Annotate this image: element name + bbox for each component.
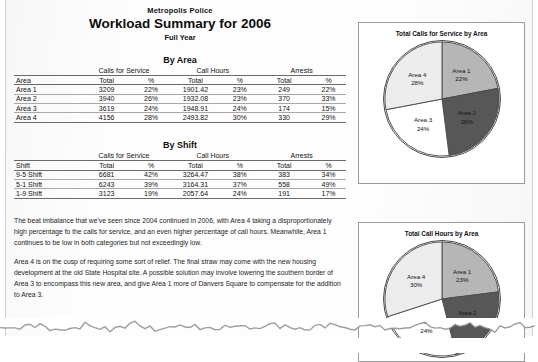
cell-calls-total: 6681 — [80, 170, 134, 179]
page-subtitle: Full Year — [14, 33, 346, 42]
cell-arrests-pct: 17% — [311, 189, 346, 198]
column-header-arrests-total: Total — [257, 161, 311, 170]
cell-calls-total: 3619 — [80, 104, 134, 113]
pie-slices — [384, 41, 500, 157]
column-header-hours-pct: % — [222, 75, 257, 84]
cell-hours-total: 3164.31 — [168, 179, 222, 188]
table-row: Area 4 4156 28% 2493.82 30% 330 29% — [14, 113, 346, 122]
column-header-calls-pct: % — [134, 75, 169, 84]
chart-panel-calls-by-area: Total Calls for Service by Area Area 122… — [358, 22, 525, 184]
column-header-calls-pct: % — [134, 161, 169, 170]
cell-hours-total: 2493.82 — [168, 113, 222, 122]
cell-calls-total: 3123 — [80, 189, 134, 198]
below-tear-strip — [0, 338, 538, 353]
pie-slice-value: 30% — [407, 281, 425, 289]
organization-name: Metropolis Police — [14, 6, 346, 15]
table-by-area: Calls for Service Call Hours Arrests Are… — [14, 67, 346, 123]
pie-slice-name: Area 4 — [407, 272, 425, 280]
pie-slice-label: Area 428% — [408, 71, 426, 88]
row-label: 1-9 Shift — [14, 189, 80, 198]
cell-arrests-pct: 22% — [311, 85, 346, 94]
row-label: Area 2 — [14, 94, 80, 103]
pie-slice-label: Area 226% — [458, 109, 476, 126]
cell-calls-pct: 19% — [134, 189, 169, 198]
note-paragraph-1: The beat imbalance that we've seen since… — [14, 215, 346, 248]
row-label: Area 4 — [14, 113, 80, 122]
column-header-arrests-pct: % — [311, 161, 346, 170]
section-title-by-area: By Area — [14, 55, 346, 65]
cell-hours-total: 1948.91 — [168, 104, 222, 113]
cell-arrests-total: 558 — [257, 179, 311, 188]
pie-slice-value: 24% — [414, 124, 432, 132]
pie-slice-name: Area 4 — [408, 71, 426, 79]
cell-calls-pct: 42% — [134, 170, 169, 179]
cell-arrests-total: 249 — [257, 85, 311, 94]
table-row: Area 1 3209 22% 1901.42 23% 249 22% — [14, 85, 346, 94]
table-row: 1-9 Shift 3123 19% 2057.64 24% 191 17% — [14, 189, 346, 198]
chart-title: Total Calls for Service by Area — [359, 30, 524, 37]
row-label: 5-1 Shift — [14, 179, 80, 188]
clipped-caption-line — [14, 338, 16, 341]
pie-slice-label: Area 324% — [414, 116, 432, 133]
pie-chart-calls-by-area: Area 122%Area 226%Area 324%Area 428% — [359, 40, 524, 158]
cell-arrests-pct: 34% — [311, 170, 346, 179]
pie-slice-name: Area 1 — [452, 67, 470, 75]
page-title: Workload Summary for 2006 — [14, 16, 346, 32]
note-paragraph-2: Area 4 is on the cusp of requiring some … — [14, 256, 346, 300]
pie-slice-value: 26% — [458, 117, 476, 125]
cell-arrests-pct: 33% — [311, 94, 346, 103]
cell-hours-pct: 24% — [222, 104, 257, 113]
table-row: 9-5 Shift 6681 42% 3264.47 38% 383 34% — [14, 170, 346, 179]
cell-hours-total: 1932.08 — [168, 94, 222, 103]
table-column-header-row: Shift Total % Total % Total % — [14, 161, 346, 170]
narrative-notes: The beat imbalance that we've seen since… — [14, 215, 346, 300]
cell-calls-total: 3940 — [80, 94, 134, 103]
table-row: Area 2 3940 26% 1932.08 23% 370 33% — [14, 94, 346, 103]
row-label: 9-5 Shift — [14, 170, 80, 179]
column-header-hours-total: Total — [168, 75, 222, 84]
cell-arrests-total: 370 — [257, 94, 311, 103]
table-by-shift: Calls for Service Call Hours Arrests Shi… — [14, 152, 346, 199]
group-header-blank — [14, 152, 80, 161]
group-header-blank — [14, 67, 80, 76]
cell-arrests-total: 383 — [257, 170, 311, 179]
cell-calls-pct: 22% — [134, 85, 169, 94]
column-header-hours-total: Total — [168, 161, 222, 170]
pie-slice-name: Area 3 — [414, 116, 432, 124]
column-header-hours-pct: % — [222, 161, 257, 170]
pie-slice-label: Area 123% — [453, 267, 471, 284]
cell-arrests-pct: 29% — [311, 113, 346, 122]
cell-arrests-total: 330 — [257, 113, 311, 122]
pie-slice-name: Area 2 — [458, 308, 476, 316]
cell-hours-pct: 23% — [222, 85, 257, 94]
group-header-calls: Calls for Service — [80, 152, 169, 161]
column-header-shift: Shift — [14, 161, 80, 170]
table-row: 5-1 Shift 6243 39% 3164.31 37% 558 49% — [14, 179, 346, 188]
pie-slice-label: Area 122% — [452, 67, 470, 84]
group-header-calls: Calls for Service — [80, 67, 169, 76]
group-header-hours: Call Hours — [168, 67, 257, 76]
cell-calls-total: 4156 — [80, 113, 134, 122]
cell-hours-pct: 30% — [222, 113, 257, 122]
pie-slice-name: Area 2 — [458, 109, 476, 117]
cell-calls-pct: 39% — [134, 179, 169, 188]
cell-hours-total: 3264.47 — [168, 170, 222, 179]
group-header-arrests: Arrests — [257, 67, 346, 76]
pie-slice-name: Area 1 — [453, 267, 471, 275]
cell-arrests-total: 191 — [257, 189, 311, 198]
cell-calls-pct: 26% — [134, 94, 169, 103]
pie-slice-value: 28% — [408, 79, 426, 87]
row-label: Area 1 — [14, 85, 80, 94]
cell-calls-total: 3209 — [80, 85, 134, 94]
pie-slice-value: 23% — [453, 276, 471, 284]
group-header-arrests: Arrests — [257, 152, 346, 161]
pie-slice-value: 22% — [452, 75, 470, 83]
table-group-header-row: Calls for Service Call Hours Arrests — [14, 67, 346, 76]
cell-arrests-total: 174 — [257, 104, 311, 113]
cell-calls-pct: 28% — [134, 113, 169, 122]
cell-hours-pct: 23% — [222, 94, 257, 103]
cell-hours-pct: 24% — [222, 189, 257, 198]
cell-arrests-pct: 49% — [311, 179, 346, 188]
pie-graphic: Area 122%Area 226%Area 324%Area 428% — [383, 40, 501, 158]
